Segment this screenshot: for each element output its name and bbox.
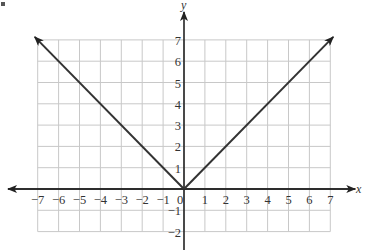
svg-text:−2: −2: [136, 193, 149, 207]
svg-text:5: 5: [285, 193, 291, 207]
svg-text:−7: −7: [31, 193, 44, 207]
svg-text:−5: −5: [73, 193, 86, 207]
svg-text:2: 2: [223, 193, 229, 207]
svg-text:1: 1: [175, 162, 181, 176]
y-tick-labels: 7654321−1−2: [168, 34, 182, 240]
svg-text:−2: −2: [168, 226, 181, 240]
svg-text:3: 3: [175, 119, 181, 133]
svg-text:−6: −6: [52, 193, 65, 207]
axes: [8, 12, 355, 250]
svg-text:−1: −1: [168, 204, 181, 218]
svg-text:6: 6: [175, 55, 181, 69]
svg-text:4: 4: [264, 193, 271, 207]
svg-text:−3: −3: [115, 193, 128, 207]
svg-text:3: 3: [244, 193, 250, 207]
svg-text:2: 2: [175, 140, 181, 154]
svg-text:1: 1: [202, 193, 208, 207]
svg-text:−4: −4: [94, 193, 108, 207]
svg-text:6: 6: [306, 193, 312, 207]
svg-text:5: 5: [175, 77, 181, 91]
svg-text:7: 7: [327, 193, 333, 207]
svg-text:4: 4: [175, 98, 182, 112]
x-tick-labels: −7−6−5−4−3−2−101234567: [31, 193, 333, 207]
absolute-value-graph: −7−6−5−4−3−2−101234567 7654321−1−2 x y: [0, 0, 365, 250]
svg-text:7: 7: [175, 34, 181, 48]
x-axis-label: x: [355, 182, 362, 196]
y-axis-label: y: [180, 0, 187, 12]
